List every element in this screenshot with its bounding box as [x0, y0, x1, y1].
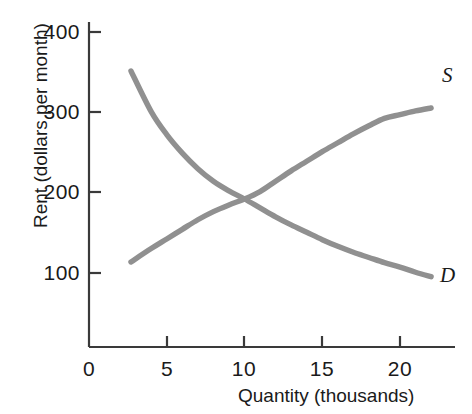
x-tick-label-5: 5: [161, 357, 173, 381]
x-axis-ticks: [167, 336, 400, 347]
y-axis-ticks: [89, 32, 101, 273]
x-tick-label-10: 10: [232, 357, 256, 381]
demand-curve-label: D: [440, 263, 455, 288]
demand-curve: [131, 71, 431, 277]
x-tick-label-0: 0: [83, 357, 95, 381]
y-tick-label-100: 100: [20, 261, 80, 285]
x-axis-title: Quantity (thousands): [238, 385, 414, 407]
supply-demand-chart: 400 300 200 100 0 5 10 15 20 Rent (dolla…: [0, 0, 472, 414]
supply-curve-label: S: [442, 63, 453, 88]
supply-curve: [131, 108, 431, 262]
x-tick-label-15: 15: [310, 357, 334, 381]
y-axis-title: Rent (dollars per month): [30, 23, 52, 228]
chart-plot-area: [0, 0, 472, 414]
x-tick-label-20: 20: [388, 357, 412, 381]
